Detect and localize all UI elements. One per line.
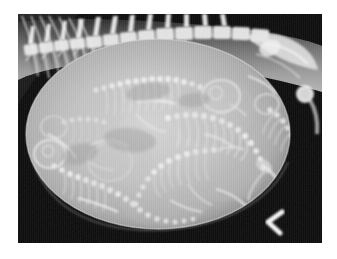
radiograph-image	[18, 14, 322, 243]
radiograph-canvas	[18, 14, 322, 243]
screenshot-root: Lateral abdominal radiograph of a gravid…	[0, 0, 337, 259]
film-grain	[18, 14, 322, 243]
